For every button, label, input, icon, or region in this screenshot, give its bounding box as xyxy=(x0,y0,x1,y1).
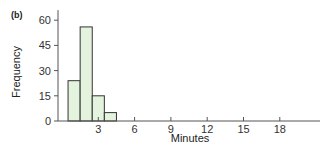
histogram-bar xyxy=(104,113,116,121)
histogram-bar xyxy=(80,27,92,121)
y-tick-label: 45 xyxy=(39,39,51,51)
x-tick-label: 18 xyxy=(274,123,286,135)
y-tick-label: 0 xyxy=(45,115,51,127)
y-tick-label: 30 xyxy=(39,65,51,77)
y-tick-label: 15 xyxy=(39,90,51,102)
x-tick-label: 9 xyxy=(168,123,174,135)
x-tick-label: 15 xyxy=(237,123,249,135)
histogram-bar xyxy=(68,81,80,121)
x-tick-label: 6 xyxy=(132,123,138,135)
y-tick-label: 60 xyxy=(39,14,51,26)
x-tick-label: 12 xyxy=(201,123,213,135)
x-tick-label: 3 xyxy=(95,123,101,135)
histogram: 015304560369121518 xyxy=(0,0,324,155)
